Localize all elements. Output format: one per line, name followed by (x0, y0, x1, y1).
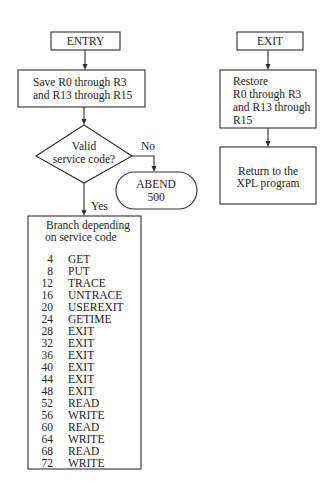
restore-registers-node: Restore R0 through R3 and R13 through R1… (220, 70, 316, 128)
return-line-2: XPL program (236, 177, 299, 190)
branch-node: Branch depending on service code 4 GET 8… (28, 216, 141, 469)
service-name: READ (68, 421, 99, 433)
service-name: WRITE (68, 409, 104, 421)
save-line-1: Save R0 through R3 (33, 76, 127, 89)
service-name: UNTRACE (68, 289, 122, 301)
service-code: 68 (42, 445, 54, 457)
service-code: 36 (42, 349, 54, 361)
service-name: EXIT (68, 325, 94, 337)
decision-line-1: Valid (72, 140, 97, 152)
exit-label: EXIT (257, 35, 283, 47)
abend-line-1: ABEND (136, 178, 176, 190)
save-to-decision-arrow (82, 107, 87, 125)
service-code: 52 (42, 397, 54, 409)
service-name: GET (68, 253, 90, 265)
arrowhead-icon (82, 210, 87, 216)
save-line-2: and R13 through R15 (33, 89, 133, 102)
arrowhead-icon (82, 119, 87, 125)
service-code: 4 (47, 253, 53, 265)
yes-label: Yes (91, 200, 108, 212)
service-name: READ (68, 397, 99, 409)
return-line-1: Return to the (238, 165, 298, 177)
decision-line-2: service code? (53, 153, 115, 165)
no-branch-arrow: No (132, 140, 157, 172)
abend-node: ABEND 500 (116, 172, 197, 209)
service-code: 12 (42, 277, 54, 289)
service-name: EXIT (68, 361, 94, 373)
service-name: WRITE (68, 433, 104, 445)
exit-to-restore-arrow (266, 50, 271, 70)
restore-line-3: and R13 through (233, 101, 311, 114)
service-name: TRACE (68, 277, 106, 289)
service-name: READ (68, 445, 99, 457)
branch-heading-2: on service code (45, 231, 117, 243)
service-name: PUT (68, 265, 90, 277)
service-code: 56 (42, 409, 54, 421)
service-code: 60 (42, 421, 54, 433)
service-code: 44 (42, 373, 54, 385)
service-code: 8 (47, 265, 53, 277)
service-code: 40 (42, 361, 54, 373)
no-label: No (141, 140, 155, 152)
service-code: 72 (42, 457, 54, 469)
service-name: WRITE (68, 457, 104, 469)
decision-node: Valid service code? (36, 125, 132, 183)
exit-node: EXIT (237, 32, 303, 50)
restore-line-4: R15 (233, 114, 252, 126)
flowchart: ENTRY Save R0 through R3 and R13 through… (0, 0, 332, 490)
entry-node: ENTRY (51, 32, 120, 50)
restore-to-return-arrow (266, 128, 271, 147)
service-code: 32 (42, 337, 54, 349)
service-code: 28 (42, 325, 54, 337)
service-code: 16 (42, 289, 54, 301)
service-name: GETIME (68, 313, 111, 325)
arrowhead-icon (83, 64, 88, 70)
service-name: USEREXIT (68, 301, 124, 313)
restore-line-2: R0 through R3 (233, 88, 302, 101)
service-name: EXIT (68, 373, 94, 385)
service-code: 48 (42, 385, 54, 397)
restore-line-1: Restore (233, 75, 268, 87)
save-registers-node: Save R0 through R3 and R13 through R15 (18, 70, 145, 107)
entry-label: ENTRY (67, 35, 105, 47)
arrowhead-icon (152, 166, 157, 172)
arrowhead-icon (266, 141, 271, 147)
service-code: 64 (42, 433, 54, 445)
entry-to-save-arrow (83, 50, 88, 70)
abend-line-2: 500 (147, 191, 165, 203)
arrowhead-icon (266, 64, 271, 70)
service-code: 20 (42, 301, 54, 313)
service-name: EXIT (68, 337, 94, 349)
yes-branch-arrow: Yes (82, 183, 109, 216)
return-node: Return to the XPL program (220, 147, 316, 204)
service-name: EXIT (68, 385, 94, 397)
service-name: EXIT (68, 349, 94, 361)
service-code: 24 (42, 313, 54, 325)
